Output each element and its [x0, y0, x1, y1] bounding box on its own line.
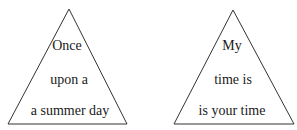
triangle-left-line-3: a summer day — [31, 103, 110, 119]
triangle-right-line-1: My — [222, 38, 241, 54]
triangle-left-line-1: Once — [52, 38, 82, 54]
triangle-right-line-3: is your time — [199, 103, 266, 119]
triangle-left-line-2: upon a — [50, 72, 88, 88]
triangle-right-line-2: time is — [214, 72, 252, 88]
